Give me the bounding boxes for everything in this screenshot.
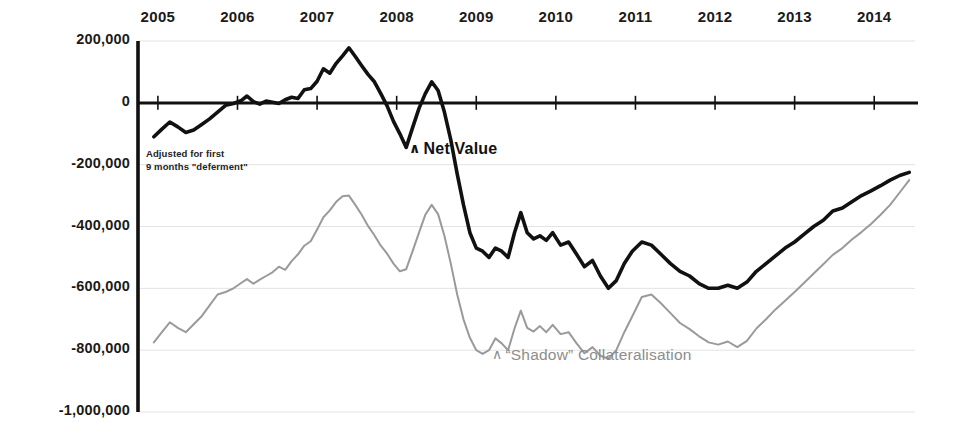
series-line-net-value bbox=[154, 48, 909, 288]
y-axis-tick-label: -1,000,000 bbox=[0, 402, 130, 418]
caret-up-icon: ∧ bbox=[409, 140, 421, 156]
chart-container: 200,0000-200,000-400,000-600,000-800,000… bbox=[0, 0, 963, 434]
y-axis-tick-label: -800,000 bbox=[0, 340, 130, 356]
shadow-label-text: “Shadow” Collateralisation bbox=[505, 346, 691, 363]
shadow-collateralisation-series-label: ∧“Shadow” Collateralisation bbox=[492, 346, 692, 364]
deferment-annotation-line1: Adjusted for first bbox=[146, 148, 248, 161]
line-chart-plot bbox=[0, 0, 963, 434]
y-axis-tick-label: 0 bbox=[0, 93, 130, 109]
deferment-annotation-line2: 9 months "deferment" bbox=[146, 161, 248, 174]
data-series-layer bbox=[154, 48, 909, 359]
y-axis-tick-label: -400,000 bbox=[0, 217, 130, 233]
net-value-label-text: Net Value bbox=[424, 140, 498, 157]
caret-up-icon-shadow: ∧ bbox=[492, 346, 502, 362]
series-line-shadow-collateralisation bbox=[154, 180, 909, 359]
x-axis-tick-label: 2014 bbox=[824, 8, 924, 25]
y-axis-tick-label: -600,000 bbox=[0, 278, 130, 294]
net-value-series-label: ∧Net Value bbox=[409, 140, 497, 158]
y-axis-tick-label: -200,000 bbox=[0, 155, 130, 171]
deferment-annotation: Adjusted for first 9 months "deferment" bbox=[146, 148, 248, 173]
y-axis-tick-label: 200,000 bbox=[0, 31, 130, 47]
